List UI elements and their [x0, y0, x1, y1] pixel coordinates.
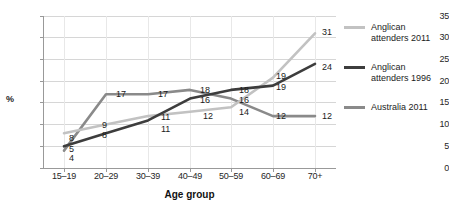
data-label-anglican1996-60-69: 19 [276, 83, 286, 92]
legend-label-line1: Australia 2011 [371, 102, 428, 112]
chart-legend: Anglican attenders 2011 Anglican attende… [344, 22, 448, 131]
grid-vertical [64, 16, 315, 168]
data-label-australia-60-69: 12 [276, 112, 286, 121]
legend-label-line1: Anglican [371, 22, 406, 32]
data-label-anglican2011-20-29: 9 [102, 121, 107, 130]
data-label-australia-20-29: 17 [116, 90, 126, 99]
legend-item-anglican-attenders-1996[interactable]: Anglican attenders 1996 [344, 62, 448, 84]
data-label-anglican1996-70plus: 24 [322, 63, 332, 72]
legend-swatch-anglican-1996 [344, 66, 365, 69]
data-label-anglican2011-15-19: 8 [69, 134, 74, 143]
x-tick-15-19: 15–19 [41, 172, 87, 181]
x-axis-title: Age group [43, 189, 336, 200]
legend-label-anglican-2011: Anglican attenders 2011 [371, 22, 430, 44]
data-label-anglican2011-70plus: 31 [322, 28, 332, 37]
data-label-anglican1996-40-49: 16 [200, 96, 210, 105]
y-tick-0: 0 [423, 164, 449, 173]
data-label-australia-70plus: 12 [322, 112, 332, 121]
data-label-anglican1996-30-39: 11 [161, 125, 170, 134]
legend-item-anglican-attenders-2011[interactable]: Anglican attenders 2011 [344, 22, 448, 44]
data-label-anglican2011-30-39: 11 [161, 113, 170, 122]
legend-label-line2: attenders 1996 [371, 73, 431, 83]
data-label-anglican2011-40-49: 12 [203, 112, 213, 121]
y-tick-35: 35 [423, 12, 449, 21]
legend-label-line2: attenders 2011 [371, 33, 430, 43]
x-tick-30-39: 30–39 [125, 172, 171, 181]
legend-label-australia-2011: Australia 2011 [371, 102, 428, 113]
x-tick-40-49: 40–49 [167, 172, 213, 181]
x-tick-50-59: 50–59 [208, 172, 254, 181]
x-tick-70plus: 70+ [292, 172, 338, 181]
data-label-anglican2011-50-59: 14 [239, 108, 249, 117]
data-label-australia-30-39: 17 [158, 90, 168, 99]
data-label-australia-50-59: 16 [239, 96, 249, 105]
data-label-anglican1996-20-29: 8 [102, 131, 107, 140]
chart-root: 35 30 25 20 15 10 5 0 % 15–19 20–29 30–3… [0, 0, 449, 222]
data-label-anglican2011-60-69: 19 [276, 72, 286, 81]
legend-item-australia-2011[interactable]: Australia 2011 [344, 102, 448, 113]
legend-swatch-anglican-2011 [344, 26, 365, 29]
y-tick-5: 5 [423, 142, 449, 151]
data-label-australia-15-19: 4 [69, 154, 74, 163]
data-label-anglican1996-50-59: 18 [239, 86, 249, 95]
legend-label-anglican-1996: Anglican attenders 1996 [371, 62, 431, 84]
legend-swatch-australia-2011 [344, 106, 365, 109]
y-axis-title: % [6, 94, 14, 104]
x-tick-20-29: 20–29 [83, 172, 129, 181]
legend-label-line1: Anglican [371, 62, 406, 72]
data-label-australia-40-49: 18 [200, 86, 210, 95]
x-tick-60-69: 60–69 [250, 172, 296, 181]
